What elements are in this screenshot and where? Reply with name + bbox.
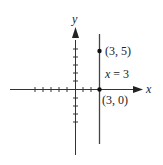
point-3-0 — [97, 87, 101, 91]
point-3-5 — [97, 49, 101, 53]
point-top-label: (3, 5) — [105, 44, 131, 58]
y-axis-arrow-icon — [72, 27, 79, 38]
x-axis-label: x — [145, 82, 152, 96]
chart: y x (3, 5) (3, 0) x = 3 — [0, 0, 163, 165]
line-equation-label: x = 3 — [104, 67, 129, 81]
y-axis-label: y — [71, 12, 78, 26]
x-axis-arrow-icon — [133, 86, 143, 93]
point-bottom-label: (3, 0) — [102, 93, 128, 107]
